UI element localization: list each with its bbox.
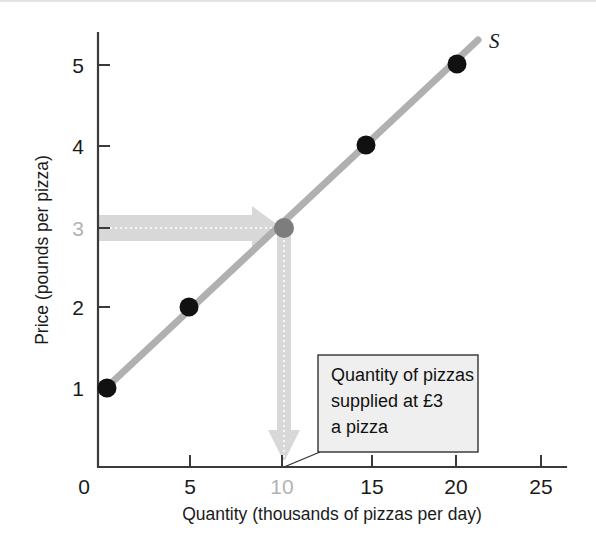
callout-line-1: Quantity of pizzas [331, 365, 474, 385]
supply-curve-line [106, 40, 478, 388]
y-axis-title: Price (pounds per pizza) [32, 155, 52, 345]
y-tick-label-4: 4 [72, 135, 84, 158]
x-axis-title: Quantity (thousands of pizzas per day) [182, 504, 482, 524]
x-tick-label-5: 5 [184, 475, 196, 498]
y-tick-label-5: 5 [72, 54, 84, 77]
data-point-q5-p2 [180, 298, 199, 317]
callout-leader-line [284, 452, 320, 467]
data-point-q15-p4 [357, 136, 376, 155]
supply-curve-chart: 5 4 3 2 1 0 5 10 15 20 25 Quantity (thou… [0, 0, 596, 538]
y-tick-label-2: 2 [72, 296, 84, 319]
price-guide-arrow [99, 206, 282, 250]
callout-line-3: a pizza [331, 417, 389, 437]
x-tick-label-15: 15 [360, 475, 383, 498]
x-tick-label-25: 25 [529, 475, 552, 498]
callout-line-2: supplied at £3 [331, 391, 443, 411]
x-tick-label-0: 0 [78, 475, 90, 498]
supply-curve-label: S [489, 29, 500, 53]
supply-curve-series: S [106, 29, 500, 388]
x-tick-label-10: 10 [270, 475, 293, 498]
data-point-q20-p5 [448, 55, 467, 74]
y-axis-ticks: 5 4 3 2 1 [72, 54, 110, 400]
callout-annotation: Quantity of pizzas supplied at £3 a pizz… [284, 355, 478, 467]
x-axis-ticks: 0 5 10 15 20 25 [78, 455, 553, 498]
y-tick-label-3: 3 [72, 217, 84, 240]
quantity-guide-arrow [268, 228, 300, 466]
y-tick-label-1: 1 [72, 377, 84, 400]
data-point-q10-p3-highlight [274, 218, 294, 238]
supply-curve-figure: 5 4 3 2 1 0 5 10 15 20 25 Quantity (thou… [0, 0, 596, 538]
data-point-q0.5-p1 [98, 379, 117, 398]
x-tick-label-20: 20 [444, 475, 467, 498]
